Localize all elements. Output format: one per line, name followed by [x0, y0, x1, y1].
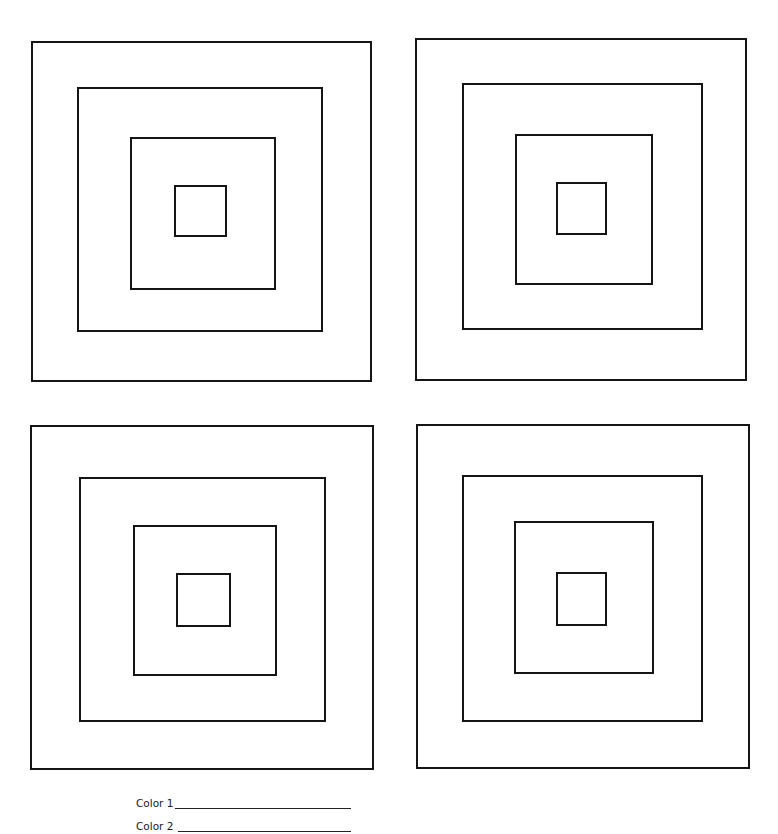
color-2-label: Color 2 [136, 820, 173, 832]
color-1-field[interactable]: Color 1 [136, 797, 351, 809]
inner-square [556, 572, 607, 626]
coloring-worksheet [0, 0, 778, 834]
color-2-answer-line[interactable] [178, 830, 351, 832]
inner-square [556, 182, 607, 235]
inner-square [176, 573, 231, 627]
color-2-field[interactable]: Color 2 [136, 820, 351, 832]
color-1-label: Color 1 [136, 797, 173, 809]
color-1-answer-line[interactable] [175, 807, 351, 809]
inner-square [174, 185, 227, 237]
